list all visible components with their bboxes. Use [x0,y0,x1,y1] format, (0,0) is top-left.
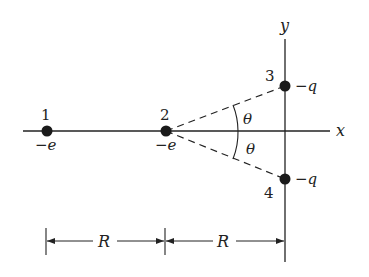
dimension-label-1: R [97,232,110,251]
charge-3-dot [280,81,291,92]
charge-configuration-diagram: x y θ θ 1 −e 2 −e 3 −q 4 −q R R [0,0,369,277]
angle-arc-upper [233,105,238,131]
theta-label-upper: θ [243,110,252,128]
dashed-line-2-to-3 [166,86,285,131]
dimension-label-2: R [216,232,229,251]
charge-3-index: 3 [265,67,275,85]
x-axis-label: x [336,121,345,140]
charge-1-index: 1 [41,106,51,124]
charge-2-value: −e [155,136,177,154]
charge-2-dot [161,126,172,137]
y-axis-label: y [279,16,290,35]
angle-arc-lower [233,131,238,159]
charge-4-dot [280,174,291,185]
dashed-line-2-to-4 [166,131,285,179]
charge-1-dot [42,126,53,137]
theta-label-lower: θ [246,140,255,158]
charge-4-index: 4 [264,184,274,202]
charge-3-value: −q [295,77,317,95]
charge-1-value: −e [35,136,57,154]
charge-2-index: 2 [160,106,170,124]
charge-4-value: −q [295,170,317,188]
